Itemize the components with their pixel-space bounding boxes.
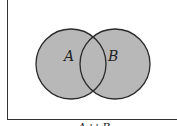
set-b-label: B [107,48,118,64]
diagram-caption: A ∪ B [77,121,110,126]
venn-diagram: A B A ∪ B [0,0,177,126]
set-a-label: A [62,48,74,64]
